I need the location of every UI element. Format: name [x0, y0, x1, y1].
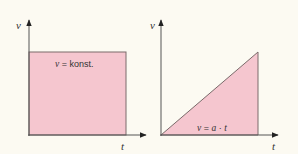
t-axis-label: t: [272, 140, 276, 152]
constant-velocity-diagram: v t v = konst.: [16, 19, 146, 152]
uniform-acceleration-diagram: v t v = a · t: [150, 19, 278, 152]
v-axis-label: v: [16, 19, 21, 31]
v-axis-label: v: [150, 19, 155, 31]
acceleration-annotation: v = a · t: [197, 123, 227, 133]
t-axis-label: t: [121, 140, 125, 152]
constant-velocity-annotation: v = konst.: [55, 59, 94, 69]
diagram-canvas: v t v = konst. v t v = a · t: [0, 0, 298, 154]
